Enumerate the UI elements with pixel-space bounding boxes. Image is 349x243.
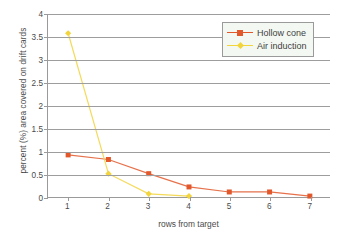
gridline	[48, 175, 330, 176]
legend-marker-air-induction-icon	[227, 40, 253, 51]
data-point-marker	[146, 191, 152, 197]
y-tick-mark	[44, 198, 48, 199]
y-tick-label: 4	[38, 10, 43, 19]
x-tick-mark	[109, 197, 110, 201]
data-point-marker	[65, 30, 71, 36]
x-tick-mark	[230, 197, 231, 201]
legend-item-air-induction: Air induction	[227, 39, 307, 52]
y-tick-mark	[44, 129, 48, 130]
series-line	[68, 33, 189, 196]
y-tick-label: 1	[38, 148, 43, 157]
y-tick-label: 1.5	[32, 125, 43, 134]
data-point-marker	[267, 189, 272, 194]
gridline	[48, 106, 330, 107]
y-tick-mark	[44, 83, 48, 84]
x-tick-label: 5	[227, 202, 232, 211]
gridline	[48, 14, 330, 15]
y-tick-mark	[44, 106, 48, 107]
data-point-marker	[106, 157, 111, 162]
chart-legend: Hollow cone Air induction	[222, 22, 314, 57]
y-tick-label: 2.5	[32, 79, 43, 88]
y-tick-mark	[44, 14, 48, 15]
gridline	[48, 129, 330, 130]
y-tick-label: 0.5	[32, 171, 43, 180]
y-tick-mark	[44, 60, 48, 61]
y-tick-label: 3.5	[32, 33, 43, 42]
x-tick-label: 4	[186, 202, 191, 211]
x-axis-tick-labels: 1234567	[47, 202, 330, 216]
chart-container: percent (%) area covered on drift cards …	[0, 0, 349, 243]
y-tick-mark	[44, 152, 48, 153]
legend-item-hollow-cone: Hollow cone	[227, 26, 307, 39]
x-axis-title: rows from target	[47, 219, 330, 229]
y-tick-label: 3	[38, 56, 43, 65]
x-tick-mark	[68, 197, 69, 201]
x-tick-mark	[190, 197, 191, 201]
x-tick-label: 3	[146, 202, 151, 211]
y-tick-label: 2	[38, 102, 43, 111]
data-point-marker	[187, 184, 192, 189]
x-tick-label: 1	[65, 202, 70, 211]
gridline	[48, 152, 330, 153]
legend-label-air-induction: Air induction	[257, 41, 307, 51]
y-axis-tick-labels: 00.511.522.533.54	[20, 14, 43, 198]
x-tick-label: 2	[105, 202, 110, 211]
data-point-marker	[66, 152, 71, 157]
x-tick-label: 7	[308, 202, 313, 211]
x-tick-mark	[311, 197, 312, 201]
x-tick-mark	[270, 197, 271, 201]
x-tick-label: 6	[267, 202, 272, 211]
y-tick-mark	[44, 175, 48, 176]
gridline	[48, 60, 330, 61]
y-tick-label: 0	[38, 194, 43, 203]
legend-label-hollow-cone: Hollow cone	[257, 28, 306, 38]
gridline	[48, 83, 330, 84]
data-point-marker	[227, 189, 232, 194]
legend-marker-hollow-cone-icon	[227, 27, 253, 38]
x-tick-mark	[149, 197, 150, 201]
y-tick-mark	[44, 37, 48, 38]
